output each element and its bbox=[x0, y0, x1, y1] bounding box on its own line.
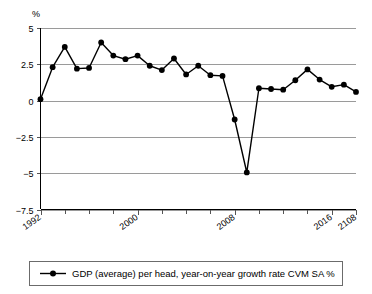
gdp-growth-line-chart: % 52.50−2.5−5−7.5 19922000200820162108 G… bbox=[0, 0, 372, 294]
data-point-marker bbox=[207, 72, 213, 78]
legend-marker-icon bbox=[50, 271, 56, 277]
data-point-marker bbox=[62, 44, 68, 50]
data-point-marker bbox=[171, 56, 177, 62]
data-point-marker bbox=[74, 66, 80, 72]
data-point-marker bbox=[256, 85, 262, 91]
y-tick-label: −5 bbox=[23, 169, 33, 179]
data-point-marker bbox=[353, 89, 359, 95]
data-point-marker bbox=[305, 66, 311, 72]
data-point-marker bbox=[86, 65, 92, 71]
y-tick-label: −7.5 bbox=[16, 206, 34, 216]
data-point-marker bbox=[317, 77, 323, 83]
data-point-marker bbox=[268, 86, 274, 92]
data-point-marker bbox=[341, 82, 347, 88]
data-point-marker bbox=[159, 67, 165, 73]
data-point-marker bbox=[147, 63, 153, 69]
y-axis-unit-label: % bbox=[32, 9, 40, 19]
chart-container: % 52.50−2.5−5−7.5 19922000200820162108 G… bbox=[0, 0, 372, 294]
data-point-marker bbox=[244, 170, 250, 176]
data-point-marker bbox=[183, 72, 189, 78]
data-point-marker bbox=[38, 96, 44, 102]
data-point-marker bbox=[110, 53, 116, 59]
chart-background bbox=[0, 0, 372, 294]
y-tick-label: 5 bbox=[28, 24, 33, 34]
y-tick-label: 2.5 bbox=[21, 60, 34, 70]
y-tick-label: 0 bbox=[28, 97, 33, 107]
y-tick-label: −2.5 bbox=[16, 133, 34, 143]
data-point-marker bbox=[329, 84, 335, 90]
data-point-marker bbox=[232, 117, 238, 123]
data-point-marker bbox=[195, 63, 201, 69]
legend-label-gdp: GDP (average) per head, year-on-year gro… bbox=[72, 268, 335, 279]
data-point-marker bbox=[220, 73, 226, 79]
data-point-marker bbox=[280, 87, 286, 93]
data-point-marker bbox=[98, 40, 104, 46]
data-point-marker bbox=[123, 56, 129, 62]
data-point-marker bbox=[135, 53, 141, 59]
data-point-marker bbox=[50, 64, 56, 70]
data-point-marker bbox=[292, 77, 298, 83]
